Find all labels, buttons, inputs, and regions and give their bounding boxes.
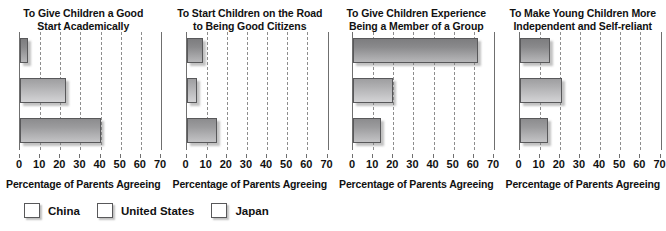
gridline-70 xyxy=(161,32,162,150)
tick-label-0: 0 xyxy=(349,158,355,170)
x-axis-title-1: Percentage of Parents Agreeing xyxy=(0,176,167,190)
tick-label-70: 70 xyxy=(487,158,499,170)
panel-title-1-line2: Start Academically xyxy=(3,20,164,33)
tick-label-60: 60 xyxy=(300,158,312,170)
x-axis-2: 010203040506070 xyxy=(186,154,327,176)
tick-label-0: 0 xyxy=(515,158,521,170)
x-axis-title-4: Percentage of Parents Agreeing xyxy=(500,176,666,190)
legend-swatch-japan-icon xyxy=(211,203,227,218)
panel-row: To Give Children a Good Start Academical… xyxy=(0,0,666,196)
tick-label-70: 70 xyxy=(653,158,665,170)
x-axis-1: 010203040506070 xyxy=(19,154,160,176)
tick-label-20: 20 xyxy=(386,158,398,170)
tick-label-30: 30 xyxy=(73,158,85,170)
tick-label-20: 20 xyxy=(53,158,65,170)
bars-1 xyxy=(20,32,161,150)
tick-label-70: 70 xyxy=(320,158,332,170)
tick-label-0: 0 xyxy=(182,158,188,170)
x-axis-4: 010203040506070 xyxy=(519,154,660,176)
tick-label-30: 30 xyxy=(573,158,585,170)
bars-2 xyxy=(187,32,328,150)
bar-japan-4 xyxy=(520,118,548,143)
panel-title-4-line1: To Make Young Children More xyxy=(503,7,664,20)
tick-label-40: 40 xyxy=(593,158,605,170)
legend-label-united-states: United States xyxy=(121,205,195,217)
plot-area-1 xyxy=(19,32,160,150)
tick-label-60: 60 xyxy=(467,158,479,170)
tick-label-50: 50 xyxy=(114,158,126,170)
bar-japan-3 xyxy=(353,118,381,143)
plot-wrap-1 xyxy=(19,32,161,154)
chart-panel-1: To Give Children a Good Start Academical… xyxy=(0,0,167,196)
bar-china-2 xyxy=(187,38,203,63)
bar-japan-2 xyxy=(187,118,217,143)
tick-label-10: 10 xyxy=(33,158,45,170)
multi-panel-bar-chart-figure: To Give Children a Good Start Academical… xyxy=(0,0,666,231)
tick-label-10: 10 xyxy=(366,158,378,170)
bar-china-3 xyxy=(353,38,478,63)
panel-title-4: To Make Young Children More Independent … xyxy=(500,0,666,32)
gridline-70 xyxy=(661,32,662,150)
panel-title-3-line2: Being a Member of a Group xyxy=(336,20,497,33)
plot-area-3 xyxy=(352,32,493,150)
legend-swatch-united-states-icon xyxy=(97,203,113,218)
plot-wrap-2 xyxy=(186,32,328,154)
tick-label-20: 20 xyxy=(220,158,232,170)
plot-wrap-4 xyxy=(519,32,661,154)
legend-item-china: China xyxy=(24,203,80,218)
tick-label-60: 60 xyxy=(633,158,645,170)
tick-label-50: 50 xyxy=(280,158,292,170)
tick-label-40: 40 xyxy=(260,158,272,170)
tick-label-30: 30 xyxy=(240,158,252,170)
tick-label-0: 0 xyxy=(16,158,22,170)
tick-label-50: 50 xyxy=(613,158,625,170)
tick-label-30: 30 xyxy=(406,158,418,170)
panel-title-2: To Start Children on the Road to Being G… xyxy=(167,0,334,32)
x-axis-title-2: Percentage of Parents Agreeing xyxy=(167,176,334,190)
legend-item-united-states: United States xyxy=(97,203,195,218)
tick-label-50: 50 xyxy=(447,158,459,170)
plot-wrap-3 xyxy=(352,32,494,154)
legend-item-japan: Japan xyxy=(211,203,268,218)
legend-swatch-china-icon xyxy=(24,203,40,218)
legend-label-china: China xyxy=(48,205,80,217)
bars-3 xyxy=(353,32,494,150)
bar-united-states-1 xyxy=(20,78,66,103)
tick-label-40: 40 xyxy=(426,158,438,170)
panel-title-4-line2: Independent and Self-reliant xyxy=(503,20,664,33)
bar-united-states-4 xyxy=(520,78,562,103)
bar-china-4 xyxy=(520,38,550,63)
x-axis-title-3: Percentage of Parents Agreeing xyxy=(333,176,500,190)
x-axis-3: 010203040506070 xyxy=(352,154,493,176)
tick-label-10: 10 xyxy=(533,158,545,170)
panel-title-2-line2: to Being Good Citizens xyxy=(170,20,331,33)
legend-label-japan: Japan xyxy=(235,205,268,217)
plot-area-2 xyxy=(186,32,327,150)
chart-panel-3: To Give Children Experience Being a Memb… xyxy=(333,0,500,196)
chart-panel-2: To Start Children on the Road to Being G… xyxy=(167,0,334,196)
tick-label-10: 10 xyxy=(200,158,212,170)
tick-label-60: 60 xyxy=(134,158,146,170)
chart-panel-4: To Make Young Children More Independent … xyxy=(500,0,666,196)
legend: China United States Japan xyxy=(24,203,286,218)
bars-4 xyxy=(520,32,661,150)
panel-title-3: To Give Children Experience Being a Memb… xyxy=(333,0,500,32)
plot-area-4 xyxy=(519,32,660,150)
gridline-70 xyxy=(328,32,329,150)
panel-title-1: To Give Children a Good Start Academical… xyxy=(0,0,167,32)
tick-label-40: 40 xyxy=(93,158,105,170)
gridline-70 xyxy=(494,32,495,150)
panel-title-2-line1: To Start Children on the Road xyxy=(170,7,331,20)
tick-label-20: 20 xyxy=(553,158,565,170)
tick-label-70: 70 xyxy=(154,158,166,170)
panel-title-3-line1: To Give Children Experience xyxy=(336,7,497,20)
bar-china-1 xyxy=(20,38,28,63)
panel-title-1-line1: To Give Children a Good xyxy=(3,7,164,20)
bar-united-states-2 xyxy=(187,78,197,103)
bar-japan-1 xyxy=(20,118,101,143)
bar-united-states-3 xyxy=(353,78,393,103)
